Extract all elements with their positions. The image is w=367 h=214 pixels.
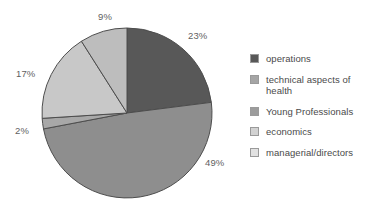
pie-chart-svg bbox=[0, 0, 245, 214]
legend-item-young-professionals[interactable]: Young Professionals bbox=[250, 106, 367, 118]
legend-item-technical-aspects-of-health[interactable]: technical aspects of health bbox=[250, 74, 367, 97]
legend-swatch-icon bbox=[250, 75, 259, 84]
chart-legend: operations technical aspects of health Y… bbox=[250, 53, 367, 167]
legend-swatch-icon bbox=[250, 54, 259, 63]
legend-item-operations[interactable]: operations bbox=[250, 53, 367, 65]
slice-label-technical-aspects-of-health: 49% bbox=[205, 158, 224, 168]
slice-label-operations: 23% bbox=[188, 31, 207, 41]
legend-item-managerial-directors[interactable]: managerial/directors bbox=[250, 147, 367, 159]
legend-item-label: Young Professionals bbox=[266, 106, 353, 118]
legend-item-label: operations bbox=[266, 53, 311, 65]
pie-chart-plot-area: 23% 49% 2% 17% 9% bbox=[0, 0, 245, 214]
legend-item-label: economics bbox=[266, 126, 312, 138]
legend-item-label: technical aspects of health bbox=[266, 74, 367, 97]
pie-chart-figure: 23% 49% 2% 17% 9% operations technical a… bbox=[0, 0, 367, 214]
legend-swatch-icon bbox=[250, 127, 259, 136]
slice-label-economics: 17% bbox=[16, 69, 35, 79]
pie-slice-group bbox=[42, 28, 212, 198]
legend-item-economics[interactable]: economics bbox=[250, 126, 367, 138]
legend-swatch-icon bbox=[250, 148, 259, 157]
legend-item-label: managerial/directors bbox=[266, 147, 353, 159]
slice-label-managerial-directors: 9% bbox=[98, 12, 112, 22]
legend-swatch-icon bbox=[250, 107, 259, 116]
slice-label-young-professionals: 2% bbox=[15, 126, 29, 136]
